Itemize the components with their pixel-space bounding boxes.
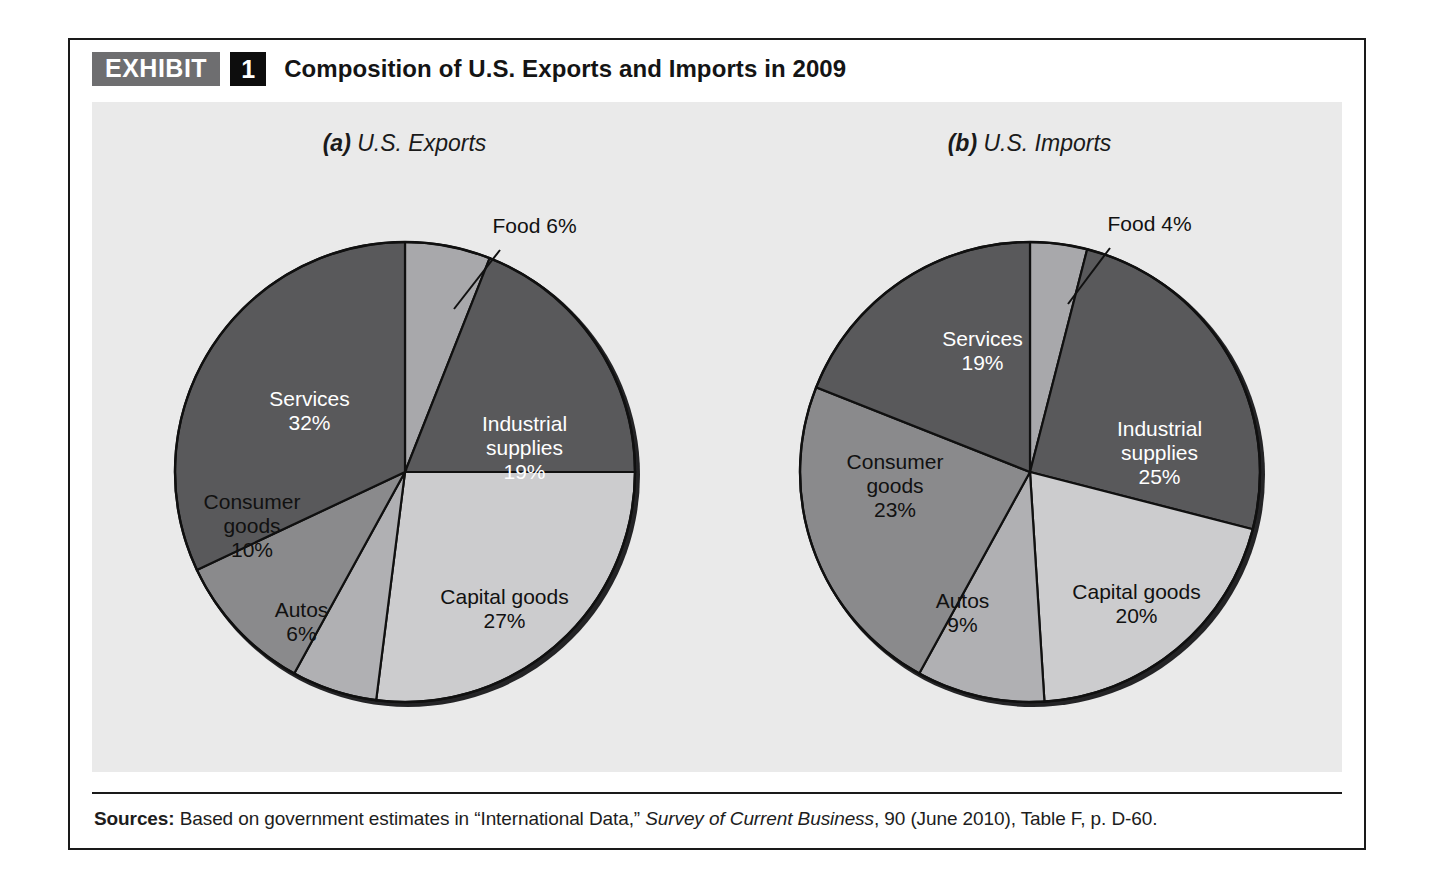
- source-text-after: , 90 (June 2010), Table F, p. D-60.: [874, 808, 1157, 829]
- source-text-before: Based on government estimates in “Intern…: [175, 808, 646, 829]
- chart-subtitle-text-exports: U.S. Exports: [351, 130, 486, 156]
- source-publication: Survey of Current Business: [645, 808, 874, 829]
- pie-chart-exports: (a) U.S. Exports Services 32%: [92, 102, 717, 772]
- chart-subtitle-exports: (a) U.S. Exports: [92, 130, 717, 157]
- source-divider: [92, 792, 1342, 794]
- pie-slices-imports: [799, 242, 1259, 702]
- exhibit-page: EXHIBIT 1 Composition of U.S. Exports an…: [0, 0, 1434, 896]
- exhibit-badge: EXHIBIT: [92, 52, 220, 86]
- chart-subtitle-text-imports: U.S. Imports: [977, 130, 1111, 156]
- chart-subtitle-imports: (b) U.S. Imports: [717, 130, 1342, 157]
- pie-slices-exports: [174, 242, 634, 702]
- pie-wrap-exports: Services 32% Industrial supplies 19% Cap…: [155, 222, 655, 722]
- exhibit-header: EXHIBIT 1 Composition of U.S. Exports an…: [70, 40, 1364, 98]
- chart-panel: (a) U.S. Exports Services 32%: [92, 102, 1342, 772]
- pie-svg-exports: [155, 222, 655, 722]
- exhibit-number-badge: 1: [230, 52, 266, 86]
- chart-subtitle-prefix-imports: (b): [948, 130, 977, 156]
- pie-wrap-imports: Services 19% Industrial supplies 25% Cap…: [780, 222, 1280, 722]
- chart-subtitle-prefix-exports: (a): [323, 130, 351, 156]
- pie-slice-capital-goods-exports[interactable]: [376, 472, 635, 702]
- pie-callout-food-imports: Food 4%: [1108, 212, 1192, 236]
- page-title: Composition of U.S. Exports and Imports …: [284, 55, 846, 83]
- pie-chart-imports: (b) U.S. Imports Services 19%: [717, 102, 1342, 772]
- pie-svg-imports: [780, 222, 1280, 722]
- pie-callout-food-exports: Food 6%: [493, 214, 577, 238]
- source-line: Sources: Based on government estimates i…: [94, 808, 1342, 830]
- source-label: Sources:: [94, 808, 175, 829]
- exhibit-frame: EXHIBIT 1 Composition of U.S. Exports an…: [68, 38, 1366, 850]
